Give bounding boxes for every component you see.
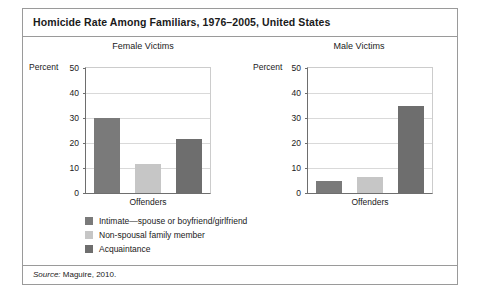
- gridline: [308, 93, 432, 94]
- source-text: Maguire, 2010.: [61, 270, 117, 279]
- source-note: Source: Maguire, 2010.: [33, 270, 116, 279]
- bar: [176, 139, 202, 193]
- figure-title: Homicide Rate Among Familiars, 1976–2005…: [33, 16, 330, 28]
- chart-panel-female-victims: Female Victims Percent 01020304050 Offen…: [23, 35, 241, 195]
- y-tick-mark: [83, 118, 86, 119]
- y-axis-title-right: Percent: [253, 62, 282, 72]
- bar: [316, 181, 342, 194]
- legend-swatch: [85, 231, 93, 239]
- panel-title-male: Male Victims: [241, 41, 459, 51]
- gridline: [86, 93, 210, 94]
- y-tick-mark: [83, 193, 86, 194]
- source-label: Source:: [33, 270, 61, 279]
- y-tick-label: 20: [63, 138, 79, 148]
- y-tick-label: 10: [285, 163, 301, 173]
- x-axis-label-right: Offenders: [307, 197, 433, 207]
- y-tick-label: 50: [285, 63, 301, 73]
- y-tick-mark: [305, 193, 308, 194]
- y-tick-mark: [83, 168, 86, 169]
- y-tick-label: 30: [285, 113, 301, 123]
- y-tick-label: 30: [63, 113, 79, 123]
- y-tick-mark: [305, 118, 308, 119]
- plot-area-male: 01020304050: [307, 67, 433, 194]
- y-tick-label: 40: [63, 88, 79, 98]
- chart-legend: Intimate—spouse or boyfriend/girlfriendN…: [85, 215, 247, 257]
- bar: [135, 164, 161, 193]
- source-divider: [23, 265, 457, 266]
- y-tick-mark: [305, 93, 308, 94]
- legend-item: Non-spousal family member: [85, 229, 247, 241]
- legend-label: Intimate—spouse or boyfriend/girlfriend: [99, 216, 247, 226]
- y-axis-title-left: Percent: [29, 62, 58, 72]
- y-tick-label: 50: [63, 63, 79, 73]
- y-tick-label: 0: [63, 188, 79, 198]
- y-tick-label: 0: [285, 188, 301, 198]
- chart-panel-male-victims: Male Victims Percent 01020304050 Offende…: [241, 35, 459, 195]
- bar: [357, 177, 383, 193]
- y-tick-mark: [83, 143, 86, 144]
- legend-swatch: [85, 245, 93, 253]
- y-tick-mark: [83, 68, 86, 69]
- y-tick-mark: [83, 93, 86, 94]
- bar: [94, 118, 120, 193]
- plot-area-female: 01020304050: [85, 67, 211, 194]
- y-tick-mark: [305, 168, 308, 169]
- legend-item: Acquaintance: [85, 243, 247, 255]
- x-axis-label-left: Offenders: [85, 197, 211, 207]
- legend-label: Non-spousal family member: [99, 230, 205, 240]
- figure-container: Homicide Rate Among Familiars, 1976–2005…: [22, 8, 458, 285]
- y-tick-mark: [305, 143, 308, 144]
- y-tick-mark: [305, 68, 308, 69]
- panel-title-female: Female Victims: [23, 41, 241, 51]
- legend-label: Acquaintance: [99, 244, 151, 254]
- y-tick-label: 40: [285, 88, 301, 98]
- legend-swatch: [85, 217, 93, 225]
- legend-item: Intimate—spouse or boyfriend/girlfriend: [85, 215, 247, 227]
- y-tick-label: 20: [285, 138, 301, 148]
- y-tick-label: 10: [63, 163, 79, 173]
- bar: [398, 106, 424, 194]
